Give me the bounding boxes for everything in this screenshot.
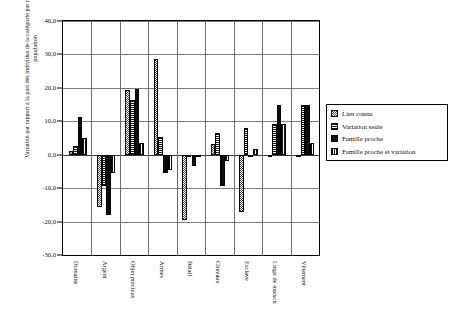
bar: [239, 155, 244, 212]
y-tick-label: 0,0: [48, 151, 56, 158]
x-tick-label: Objet précieux: [130, 261, 136, 299]
legend-item[interactable]: Famille proche et variation: [331, 147, 444, 156]
bar: [248, 155, 253, 157]
y-tick-label: -20,0: [42, 218, 56, 225]
bar: [158, 137, 163, 155]
bar: [281, 124, 286, 155]
y-tick-label: 20,0: [44, 85, 56, 92]
legend-swatch-icon: [331, 110, 338, 117]
bar: [268, 155, 273, 157]
legend-item[interactable]: Variation seule: [331, 122, 444, 131]
legend-swatch-icon: [331, 135, 338, 142]
bar: [139, 143, 144, 154]
x-tick-label: Bétail: [187, 261, 193, 276]
x-tick-label: Chevaux: [215, 261, 221, 284]
category-separator: [177, 21, 178, 255]
category-separator: [91, 21, 92, 255]
bar: [111, 155, 116, 173]
gridline: [63, 88, 319, 89]
bar: [225, 155, 230, 162]
y-tick-label: -10,0: [42, 185, 56, 192]
legend-swatch-icon: [331, 148, 338, 155]
category-separator: [120, 21, 121, 255]
plot-inner: [63, 21, 319, 255]
category-separator: [291, 21, 292, 255]
legend-item[interactable]: Famille proche: [331, 134, 444, 143]
legend-swatch-icon: [331, 123, 338, 130]
bar: [310, 143, 315, 155]
y-tick-label: 40,0: [44, 18, 56, 25]
x-tick-label: Linge de maison: [272, 261, 278, 304]
category-separator: [148, 21, 149, 255]
bar: [296, 155, 301, 157]
x-tick-label: Esclave: [243, 261, 249, 281]
y-tick-label: 10,0: [44, 118, 56, 125]
legend-label: Lien connu: [342, 109, 373, 118]
legend-label: Famille proche: [342, 134, 383, 143]
category-separator: [205, 21, 206, 255]
bar: [82, 138, 87, 155]
bar: [168, 155, 173, 170]
legend-label: Famille proche et variation: [342, 147, 415, 156]
x-axis-labels: DomaineArgentObjet précieuxArmesBétailCh…: [62, 258, 320, 330]
bar: [196, 155, 201, 157]
bar: [244, 128, 249, 155]
chart-legend: Lien connuVariation seuleFamille procheF…: [326, 104, 448, 161]
bar: [215, 133, 220, 155]
plot-area: [62, 20, 320, 256]
x-tick-label: Armes: [158, 261, 164, 278]
legend-item[interactable]: Lien connu: [331, 109, 444, 118]
x-tick-label: Argent: [101, 261, 107, 279]
y-axis-ticks: 40,030,020,010,00,0-10,0-20,0-30,0: [0, 20, 62, 256]
category-separator: [234, 21, 235, 255]
x-tick-label: Vêtement: [300, 261, 306, 286]
gridline: [63, 21, 319, 22]
x-tick-label: Domaine: [73, 261, 79, 284]
gridline: [63, 222, 319, 223]
bar: [253, 149, 258, 155]
gridline: [63, 54, 319, 55]
legend-label: Variation seule: [342, 122, 383, 131]
category-separator: [262, 21, 263, 255]
y-tick-label: -30,0: [42, 252, 56, 259]
bar: [182, 155, 187, 220]
y-tick-label: 30,0: [44, 51, 56, 58]
